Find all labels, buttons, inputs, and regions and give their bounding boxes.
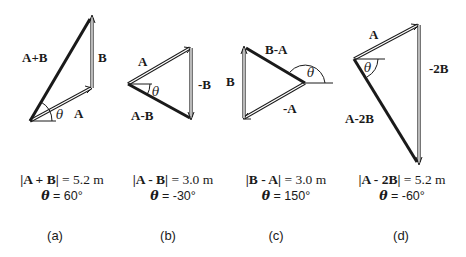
angle-value: = 60°	[53, 189, 83, 203]
label-minus-a: -A	[283, 101, 297, 116]
magnitude-value: = 5.2 m	[62, 172, 104, 187]
vector-minus-b	[188, 48, 194, 120]
vector-b	[89, 15, 95, 88]
vector-minus-2b	[416, 25, 422, 165]
magnitude-expression: |B - A|	[246, 172, 281, 187]
magnitude-expression: |A + B|	[20, 172, 58, 187]
caption-d: |A - 2B| = 5.2 m θ = -60°	[342, 172, 462, 204]
panel-c-diagram: B-A B -A θ	[226, 42, 333, 119]
label-a-plus-b: A+B	[22, 50, 48, 65]
label-a: A	[74, 106, 84, 121]
panel-label-c: (c)	[256, 228, 296, 243]
label-theta: θ	[56, 108, 64, 122]
label-theta: θ	[307, 66, 315, 80]
label-minus-b: -B	[198, 77, 211, 92]
label-a-minus-2b: A-2B	[345, 111, 374, 126]
panel-b-diagram: A -B A-B θ	[128, 47, 211, 123]
angle-value: = -30°	[162, 189, 196, 203]
angle-symbol: θ	[150, 188, 158, 203]
label-b: B	[98, 50, 107, 65]
magnitude-value: = 3.0 m	[284, 172, 326, 187]
vector-b	[241, 46, 247, 118]
label-minus-2b: -2B	[429, 61, 449, 76]
caption-b: |A - B| = 3.0 m θ = -30°	[118, 172, 228, 204]
angle-symbol: θ	[41, 188, 49, 203]
panel-label-a: (a)	[35, 228, 75, 243]
angle-symbol: θ	[379, 188, 387, 203]
caption-c: |B - A| = 3.0 m θ = 150°	[231, 172, 341, 204]
angle-value: = 150°	[274, 189, 311, 203]
panel-label-d: (d)	[381, 228, 421, 243]
label-b: B	[226, 74, 235, 89]
label-theta: θ	[364, 61, 372, 75]
caption-a: |A + B| = 5.2 m θ = 60°	[7, 172, 117, 204]
magnitude-value: = 3.0 m	[171, 172, 213, 187]
vector-a	[354, 24, 419, 59]
label-a: A	[138, 54, 148, 69]
magnitude-value: = 5.2 m	[404, 172, 446, 187]
magnitude-expression: |A - 2B|	[358, 172, 400, 187]
panel-d-diagram: A -2B A-2B θ	[345, 24, 449, 165]
label-b-minus-a: B-A	[265, 42, 288, 57]
label-theta: θ	[152, 85, 160, 99]
panel-a-diagram: A+B B A θ	[22, 15, 107, 122]
panel-label-b: (b)	[148, 228, 188, 243]
label-a: A	[369, 27, 379, 42]
magnitude-expression: |A - B|	[133, 172, 168, 187]
angle-value: = -60°	[391, 189, 425, 203]
label-a-minus-b: A-B	[131, 108, 154, 123]
vector-diagrams: A+B B A θ A -B A-B θ	[0, 0, 466, 170]
angle-symbol: θ	[262, 188, 270, 203]
